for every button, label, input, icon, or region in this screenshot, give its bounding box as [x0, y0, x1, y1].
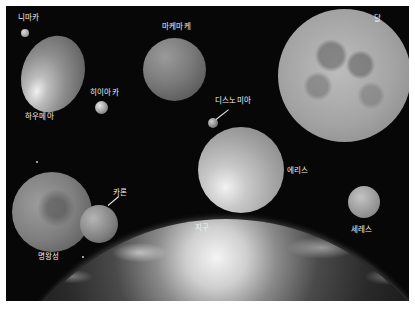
charon-image: [80, 205, 118, 243]
star: [82, 256, 84, 258]
solar-system-bodies-figure: 지구 달 마케마케 니마카 하우메아 히이아카 디스노미아 에리스 세레스 명왕…: [6, 6, 409, 301]
ceres-image: [348, 186, 380, 218]
moon-image: [278, 9, 409, 142]
pluto-label: 명왕성: [38, 252, 60, 261]
charon-label: 카론: [113, 188, 127, 197]
pluto-image: [12, 172, 92, 252]
makemake-image: [143, 38, 206, 101]
charon-pointer-line: [108, 196, 119, 206]
dysnomia-pointer-line: [216, 109, 229, 120]
eris-label: 에리스: [287, 166, 309, 175]
haumea-label: 하우메아: [25, 112, 54, 121]
earth-label: 지구: [195, 223, 209, 232]
dysnomia-label: 디스노미아: [215, 96, 251, 105]
eris-image: [198, 127, 284, 213]
haumea-image: [11, 27, 96, 122]
hiiaka-image: [95, 101, 108, 114]
star: [36, 161, 38, 163]
namaka-label: 니마카: [18, 13, 40, 22]
ceres-label: 세레스: [351, 225, 373, 234]
hiiaka-label: 히이아카: [90, 88, 119, 97]
makemake-label: 마케마케: [162, 22, 191, 31]
namaka-image: [21, 29, 29, 37]
moon-label: 달: [374, 14, 381, 23]
